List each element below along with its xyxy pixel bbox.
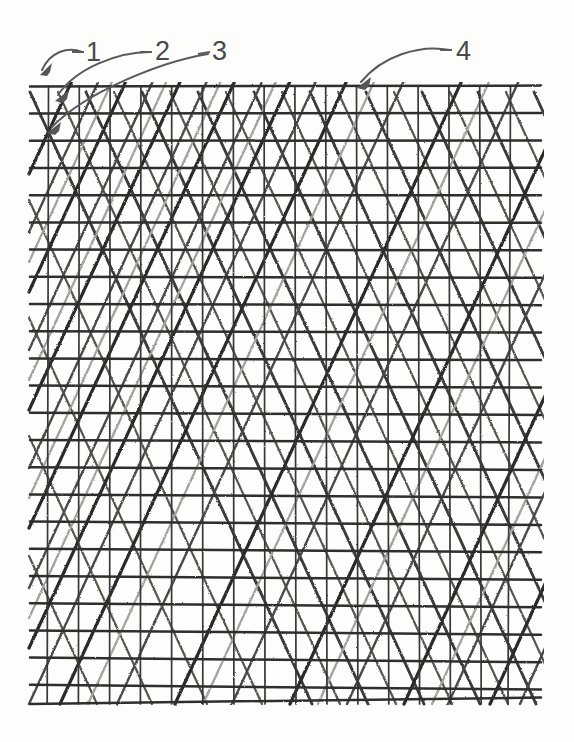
callout-label-4: 4 [456, 38, 471, 65]
callout-label-1: 1 [86, 39, 101, 66]
callout-label-3: 3 [212, 38, 227, 65]
patent-figure: 1 2 3 4 [0, 0, 574, 742]
callout-label-2: 2 [155, 38, 170, 65]
mesh-drawing [0, 0, 574, 742]
